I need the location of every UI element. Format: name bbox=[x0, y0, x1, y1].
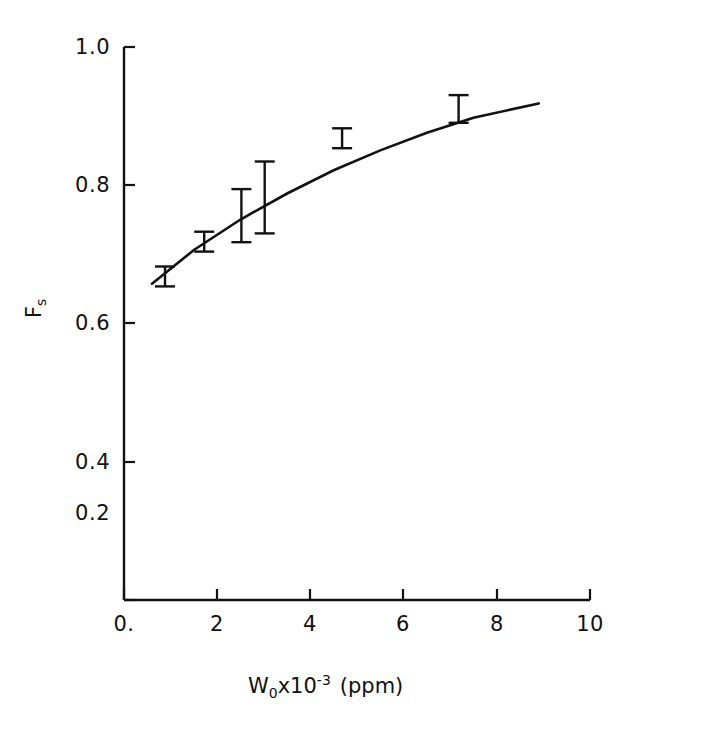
error-bar-1 bbox=[155, 267, 175, 287]
y-axis-label-subscript: s bbox=[33, 299, 49, 306]
y-tick-label-0.8: 0.8 bbox=[50, 173, 110, 197]
x-axis-label: W0x10-3(ppm) bbox=[248, 672, 403, 701]
y-axis-label-symbol: F bbox=[22, 306, 46, 318]
x-tick-label-10: 10 bbox=[576, 612, 604, 636]
x-tick-label-8: 8 bbox=[490, 612, 504, 636]
y-tick-label-0.6: 0.6 bbox=[50, 311, 110, 335]
y-tick-label-1.0: 1.0 bbox=[50, 35, 110, 59]
axes bbox=[124, 47, 590, 600]
x-axis-ticks bbox=[124, 589, 590, 600]
x-tick-label-4: 4 bbox=[303, 612, 317, 636]
y-axis-ticks bbox=[124, 47, 135, 600]
x-tick-label-0: 0. bbox=[113, 612, 134, 636]
x-axis-label-exponent: -3 bbox=[317, 672, 331, 688]
y-tick-label-0.2: 0.2 bbox=[50, 501, 110, 525]
y-tick-label-0.4: 0.4 bbox=[50, 450, 110, 474]
x-axis-label-units: (ppm) bbox=[340, 674, 404, 698]
plot-area bbox=[0, 0, 715, 749]
error-bar-group bbox=[155, 95, 469, 286]
error-bar-6 bbox=[449, 95, 469, 123]
x-tick-label-2: 2 bbox=[210, 612, 224, 636]
fitted-curve bbox=[152, 103, 539, 283]
chart-figure: 1.0 0.8 0.6 0.4 0.2 0. 2 4 6 8 10 Fs W0x… bbox=[0, 0, 715, 749]
y-axis-label: Fs bbox=[22, 299, 49, 318]
error-bar-5 bbox=[332, 128, 352, 148]
x-axis-label-subscript: 0 bbox=[269, 685, 278, 701]
x-axis-label-symbol: W bbox=[248, 674, 269, 698]
x-axis-label-times: x10 bbox=[278, 674, 317, 698]
error-bar-4 bbox=[255, 162, 275, 234]
x-tick-label-6: 6 bbox=[396, 612, 410, 636]
